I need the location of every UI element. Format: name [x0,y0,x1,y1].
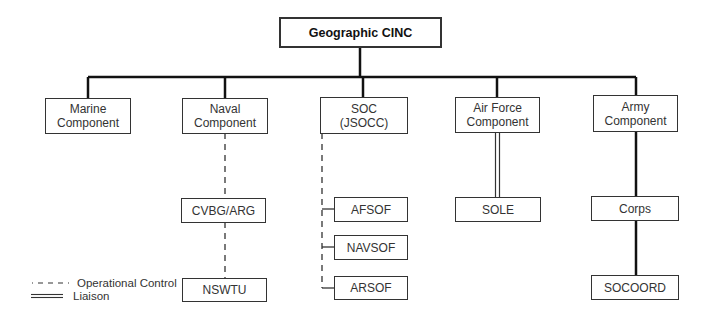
naval-line1: Naval [210,102,241,116]
navsof-box: NAVSOF [334,235,408,260]
sole-label: SOLE [482,203,514,217]
geographic-cinc-label: Geographic CINC [309,26,413,40]
socoord-box: SOCOORD [591,275,679,300]
afsof-label: AFSOF [351,203,391,217]
sole-box: SOLE [455,197,541,222]
soc-line2: (JSOCC) [340,116,389,130]
socoord-label: SOCOORD [604,281,666,295]
nswtu-box: NSWTU [182,278,267,302]
dashed-line-icon [31,280,73,286]
marine-line1: Marine [70,102,107,116]
afsof-box: AFSOF [334,197,408,222]
airforce-line2: Component [466,115,528,129]
airforce-line1: Air Force [473,101,522,115]
legend-liaison-label: Liaison [73,290,109,302]
cvbg-arg-box: CVBG/ARG [181,198,266,223]
naval-line2: Component [194,116,256,130]
legend-operational-control-label: Operational Control [77,277,177,289]
legend: Operational Control Liaison [31,276,177,302]
corps-box: Corps [591,196,679,221]
legend-liaison: Liaison [31,289,177,302]
army-component-box: Army Component [593,95,678,132]
double-line-icon [31,293,63,299]
army-line2: Component [604,114,666,128]
arsof-box: ARSOF [334,276,408,300]
naval-component-box: Naval Component [182,98,268,134]
navsof-label: NAVSOF [347,241,395,255]
army-line1: Army [622,100,650,114]
arsof-label: ARSOF [350,281,391,295]
cvbg-arg-label: CVBG/ARG [192,204,255,218]
corps-label: Corps [619,202,651,216]
legend-operational-control: Operational Control [31,276,177,289]
marine-component-box: Marine Component [45,98,131,134]
nswtu-label: NSWTU [203,283,247,297]
geographic-cinc-box: Geographic CINC [279,17,442,48]
air-force-component-box: Air Force Component [455,97,540,133]
soc-jsocc-box: SOC (JSOCC) [320,97,408,134]
marine-line2: Component [57,116,119,130]
soc-line1: SOC [351,102,377,116]
